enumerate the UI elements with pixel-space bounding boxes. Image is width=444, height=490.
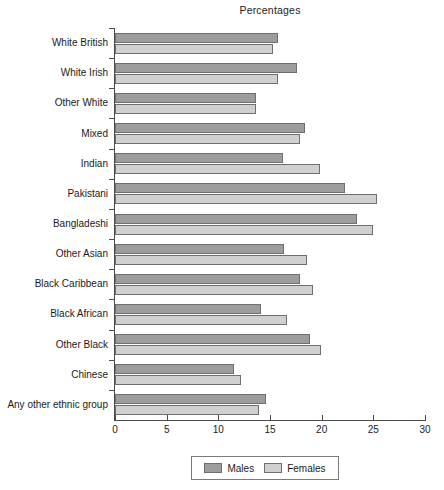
legend-swatch-females [264, 463, 282, 473]
x-axis-tick [218, 415, 219, 421]
bar-females [115, 315, 287, 325]
y-axis-tick [109, 118, 115, 119]
bar-chart: Percentages 051015202530 White BritishWh… [0, 0, 444, 490]
x-axis-tick [373, 415, 374, 421]
y-axis-category-label: Pakistani [0, 188, 108, 199]
bar-females [115, 134, 300, 144]
legend-item-males: Males [204, 463, 254, 474]
chart-title: Percentages [115, 4, 425, 16]
y-axis-tick [109, 209, 115, 210]
y-axis-tick [109, 149, 115, 150]
y-axis-tick [109, 58, 115, 59]
y-axis-tick [109, 390, 115, 391]
x-axis-tick-label: 5 [152, 424, 182, 435]
legend-label-males: Males [227, 463, 254, 474]
bar-females [115, 405, 259, 415]
y-axis-category-label: Mixed [0, 128, 108, 139]
bar-males [115, 183, 345, 193]
x-axis-tick [270, 415, 271, 421]
bar-males [115, 153, 283, 163]
y-axis-tick [109, 330, 115, 331]
y-axis-tick [109, 299, 115, 300]
bar-males [115, 123, 305, 133]
bar-females [115, 375, 241, 385]
bar-males [115, 394, 266, 404]
y-axis-category-label: Other Black [0, 339, 108, 350]
bar-males [115, 93, 256, 103]
y-axis-category-label: Chinese [0, 369, 108, 380]
bar-males [115, 214, 357, 224]
x-axis-tick-label: 20 [307, 424, 337, 435]
y-axis-tick [109, 239, 115, 240]
y-axis-category-label: Other Asian [0, 248, 108, 259]
y-axis-category-label: Any other ethnic group [0, 399, 108, 410]
bar-females [115, 194, 377, 204]
bar-females [115, 74, 278, 84]
y-axis-tick [109, 28, 115, 29]
bar-females [115, 44, 273, 54]
y-axis-tick [109, 360, 115, 361]
y-axis-tick [109, 179, 115, 180]
bar-males [115, 33, 278, 43]
legend-label-females: Females [287, 463, 325, 474]
bar-females [115, 104, 256, 114]
x-axis-tick [322, 415, 323, 421]
x-axis-tick-label: 10 [203, 424, 233, 435]
bar-males [115, 364, 234, 374]
x-axis-tick [425, 415, 426, 421]
y-axis-category-label: Indian [0, 158, 108, 169]
bar-males [115, 334, 310, 344]
x-axis-tick-label: 25 [358, 424, 388, 435]
legend: Males Females [191, 456, 339, 480]
legend-swatch-males [204, 463, 222, 473]
bar-males [115, 63, 297, 73]
bar-females [115, 285, 313, 295]
bar-females [115, 164, 320, 174]
y-axis-tick [109, 269, 115, 270]
x-axis-tick-label: 15 [255, 424, 285, 435]
x-axis-tick-label: 30 [410, 424, 440, 435]
y-axis-category-label: Bangladeshi [0, 218, 108, 229]
y-axis-category-label: Other White [0, 97, 108, 108]
legend-item-females: Females [264, 463, 325, 474]
x-axis-tick [167, 415, 168, 421]
bar-females [115, 255, 307, 265]
y-axis-category-label: White Irish [0, 67, 108, 78]
bar-males [115, 244, 284, 254]
bar-males [115, 304, 261, 314]
y-axis-category-label: Black African [0, 308, 108, 319]
y-axis-category-label: White British [0, 37, 108, 48]
x-axis-tick-label: 0 [100, 424, 130, 435]
y-axis-category-label: Black Caribbean [0, 278, 108, 289]
y-axis-tick [109, 88, 115, 89]
bar-females [115, 225, 373, 235]
x-axis-tick [115, 415, 116, 421]
bar-females [115, 345, 321, 355]
bar-males [115, 274, 300, 284]
